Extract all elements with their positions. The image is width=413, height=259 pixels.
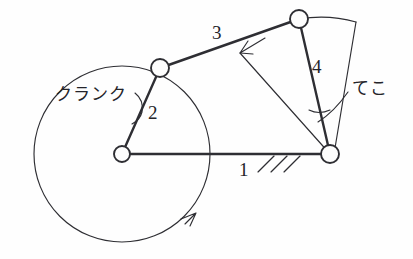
link-3-arrow-icon: [240, 38, 265, 54]
label-link-3: 3: [212, 23, 222, 42]
link-4-rocker-left-edge: [299, 19, 330, 154]
joint-fixed-pivot-right: [321, 145, 339, 163]
ground-hatching-icon: [258, 156, 300, 172]
linkage-diagram: 1 2 3 4 クランク てこ: [0, 0, 413, 259]
link-3-coupler: [160, 19, 299, 68]
label-crank: クランク: [55, 86, 127, 103]
label-link-2: 2: [148, 103, 158, 122]
label-link-1: 1: [239, 160, 249, 179]
joint-coupler-rocker: [290, 10, 308, 28]
joint-crank-pin: [151, 59, 169, 77]
linkage-drawing: [0, 0, 413, 259]
rotation-direction-arrow-icon: [181, 213, 196, 226]
label-link-4: 4: [312, 57, 322, 76]
label-lever: てこ: [352, 80, 388, 97]
joint-fixed-pivot-left: [114, 146, 130, 162]
